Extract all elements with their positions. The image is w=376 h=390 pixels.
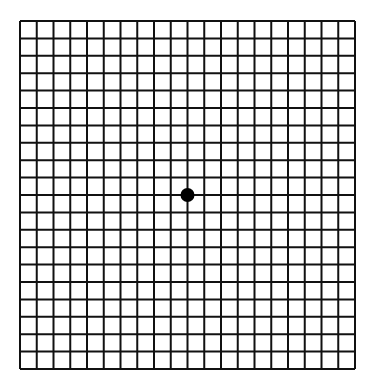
fixation-dot [181,188,195,202]
amsler-grid [0,0,376,390]
